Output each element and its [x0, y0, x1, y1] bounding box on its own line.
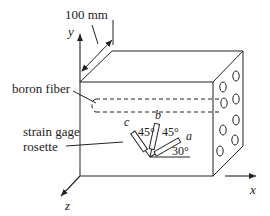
- dimension-label: 100 mm: [65, 7, 108, 22]
- gage-c-label: c: [124, 115, 130, 129]
- angle-a-label: 30°: [172, 144, 189, 158]
- y-axis-label: y: [66, 24, 74, 39]
- angle-ba-label: 45°: [162, 125, 179, 139]
- diagram-canvas: y z x 100 mm boron fiber strain gage ros…: [0, 0, 270, 216]
- fiber-holes: [217, 71, 239, 156]
- x-axis-label: x: [249, 182, 256, 197]
- boron-fiber-leader: [73, 91, 96, 103]
- z-axis-arrow: [61, 176, 80, 196]
- angle-cb-label: 45°: [138, 125, 155, 139]
- block-top-face: [80, 51, 243, 82]
- rosette-label-line1: strain gage: [23, 124, 80, 139]
- rosette-leader: [66, 142, 123, 146]
- block-side-face: [213, 51, 243, 176]
- rosette-label-line2: rosette: [23, 139, 58, 154]
- boron-fiber-label: boron fiber: [12, 81, 71, 96]
- gage-b-label: b: [155, 108, 161, 122]
- z-axis-label: z: [64, 198, 70, 213]
- dimension-100mm: [82, 20, 113, 71]
- gage-a-label: a: [186, 129, 192, 143]
